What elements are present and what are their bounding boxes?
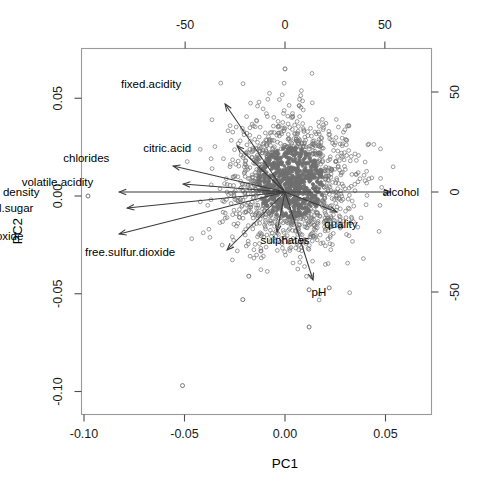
loading-label-density: density [3,186,40,198]
plot-frame [82,49,432,415]
right-tick-label: 0 [448,188,462,195]
outlier-point [241,298,245,302]
right-tick-label: -50 [448,283,462,301]
top-tick-label: 50 [378,18,392,32]
top-tick-label: 0 [282,18,289,32]
loading-label-fixed-acidity: fixed.acidity [121,78,181,90]
right-tick-label: 50 [448,85,462,99]
top-tick-label: -50 [176,18,194,32]
loading-label-quality: quality [324,218,357,230]
loading-label-sulphates: sulphates [260,234,309,246]
outlier-point [181,384,185,388]
x-tick-label: -0.05 [170,427,199,441]
outlier-point [307,288,311,292]
x-tick-label: 0.05 [373,427,397,441]
outlier-point [86,194,90,198]
outlier-point [327,286,331,290]
x-axis-title: PC1 [272,456,298,471]
axis-tick-labels: -0.10-0.050.000.050.050.00-0.05-0.10-500… [51,18,462,441]
y-axis-title: PC2 [10,218,25,244]
outlier-point [283,67,287,71]
y-tick-label: -0.10 [51,377,65,406]
y-tick-label: -0.05 [51,279,65,308]
pca-biplot-figure: -0.10-0.050.000.050.050.00-0.05-0.10-500… [0,0,484,488]
loading-label-pH: pH [312,286,327,298]
y-tick-label: 0.05 [51,86,65,110]
x-tick-label: -0.10 [70,427,99,441]
loading-label-free-sulfur-dioxide: free.sulfur.dioxide [85,246,175,258]
loading-label-alcohol: alcohol [383,186,419,198]
x-tick-label: 0.00 [273,427,297,441]
biplot-svg: -0.10-0.050.000.050.050.00-0.05-0.10-500… [0,0,484,488]
loading-label-citric-acid: citric.acid [143,142,191,154]
loading-label-residual-sugar: residual.sugar [0,202,34,214]
loading-label-chlorides: chlorides [63,152,109,164]
outlier-point [247,274,251,278]
outlier-point [307,325,311,329]
